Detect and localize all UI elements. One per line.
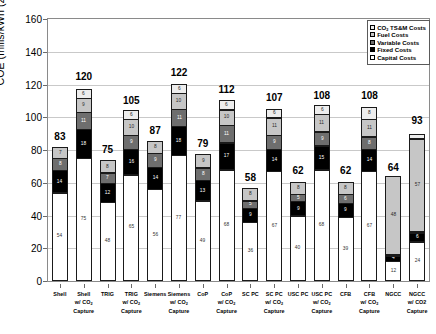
segment-value: 8 — [368, 141, 371, 146]
segment-value: 8 — [154, 145, 157, 150]
segment-value: 11 — [367, 126, 372, 131]
coe-stacked-bar-chart: COE (mills/kWh (2007$)) 0204060801001201… — [0, 0, 436, 334]
segment-value: 68 — [224, 223, 229, 228]
x-axis-label: NGCCw/ CO2Capture — [394, 290, 436, 315]
x-tick-mark — [84, 284, 85, 288]
segment-value: 11 — [176, 115, 181, 120]
bar-segment: 56 — [147, 189, 163, 281]
legend-label: Fuel Costs — [377, 31, 408, 38]
legend-label: Capital Costs — [377, 54, 416, 61]
x-tick-mark — [346, 284, 347, 288]
bar-segment: 7 — [100, 173, 116, 184]
y-tick-mark — [43, 216, 47, 217]
segment-value: 6 — [225, 103, 228, 108]
y-tick-mark — [43, 19, 47, 20]
x-tick-mark — [60, 284, 61, 288]
legend-item: Capital Costs — [370, 54, 426, 61]
segment-value: 12 — [105, 191, 110, 196]
segment-value: 13 — [200, 188, 205, 193]
segment-value: 9 — [82, 103, 85, 108]
y-tick-label: 20 — [14, 243, 42, 254]
segment-value: 6 — [320, 108, 323, 113]
bar-segment: 17 — [219, 143, 235, 171]
x-tick-mark — [227, 284, 228, 288]
segment-value: 9 — [154, 158, 157, 163]
segment-value: 5 — [249, 202, 252, 207]
bar-segment: 7 — [52, 147, 68, 158]
legend-label: Variable Costs — [377, 39, 419, 46]
segment-value: 12 — [391, 269, 396, 274]
bar-total-label: 112 — [205, 84, 249, 95]
bar-stack: 8693962 — [338, 182, 354, 281]
y-tick-mark — [43, 85, 47, 86]
bar-segment: 8 — [290, 182, 306, 195]
bar-total-label: 120 — [62, 71, 106, 82]
y-tick-mark — [43, 281, 47, 282]
y-tick-label: 0 — [14, 276, 42, 287]
segment-value: 6 — [82, 91, 85, 96]
bar-stack: 69111875120 — [76, 90, 92, 281]
bar-segment: 11 — [266, 118, 282, 136]
segment-value: 9 — [320, 137, 323, 142]
y-tick-label: 40 — [14, 210, 42, 221]
bar-stack: 78145483 — [52, 148, 68, 281]
segment-value: 56 — [152, 233, 157, 238]
segment-value: 9 — [344, 208, 347, 213]
segment-value: 49 — [200, 238, 205, 243]
segment-value: 11 — [272, 124, 277, 129]
x-tick-mark — [250, 284, 251, 288]
segment-value: 40 — [295, 246, 300, 251]
segment-value: 10 — [224, 115, 229, 120]
bar-segment: 14 — [147, 167, 163, 190]
bar-segment: 49 — [195, 201, 211, 281]
y-tick-label: 80 — [14, 145, 42, 156]
x-tick-mark — [203, 284, 204, 288]
segment-value: 10 — [176, 99, 181, 104]
segment-value: 68 — [319, 223, 324, 228]
bar-segment: 10 — [171, 93, 187, 109]
bar-total-label: 105 — [109, 95, 153, 106]
segment-value: 6 — [273, 111, 276, 116]
bar-stack: 61191467107 — [266, 109, 282, 281]
segment-value: 6 — [178, 87, 181, 92]
bar-stack: 61191568108 — [314, 106, 330, 281]
y-tick-mark — [43, 183, 47, 184]
segment-value: 8 — [106, 164, 109, 169]
x-tick-mark — [369, 284, 370, 288]
x-tick-mark — [179, 284, 180, 288]
bar-segment: 8 — [195, 168, 211, 181]
bar-total-label: 108 — [347, 90, 391, 101]
y-tick-label: 160 — [14, 14, 42, 25]
segment-value: 16 — [129, 160, 134, 165]
segment-value: 6 — [416, 235, 419, 240]
segment-value: 8 — [201, 172, 204, 177]
bar-stack: 5762493 — [409, 135, 425, 281]
legend-item: CO2 TS&M Costs — [370, 24, 426, 31]
segment-value: 57 — [414, 183, 419, 188]
legend-swatch — [370, 40, 375, 45]
segment-value: 11 — [224, 132, 229, 137]
bar-stack: 610111768112 — [219, 101, 235, 281]
bar-segment: 36 — [242, 222, 258, 281]
bar-segment: 8 — [361, 137, 377, 150]
bar-segment: 75 — [76, 158, 92, 281]
segment-value: 7 — [59, 150, 62, 155]
bar-segment: 11 — [171, 109, 187, 127]
segment-value: 5 — [297, 196, 300, 201]
legend-swatch — [370, 32, 375, 37]
legend-item: Fuel Costs — [370, 31, 426, 38]
bar-segment: 57 — [409, 139, 425, 232]
y-tick-mark — [43, 117, 47, 118]
segment-value: 9 — [273, 140, 276, 145]
legend-swatch — [370, 55, 375, 60]
bar-segment: 77 — [171, 155, 187, 281]
bar-stack: 8594062 — [290, 182, 306, 281]
bar-stack: 61091665105 — [123, 111, 139, 281]
segment-value: 8 — [59, 162, 62, 167]
x-tick-mark — [322, 284, 323, 288]
segment-value: 8 — [297, 186, 300, 191]
bar-total-label: 107 — [252, 92, 296, 103]
segment-value: 8 — [344, 186, 347, 191]
bar-segment: 13 — [195, 180, 211, 201]
legend-label: Fixed Costs — [377, 46, 412, 53]
